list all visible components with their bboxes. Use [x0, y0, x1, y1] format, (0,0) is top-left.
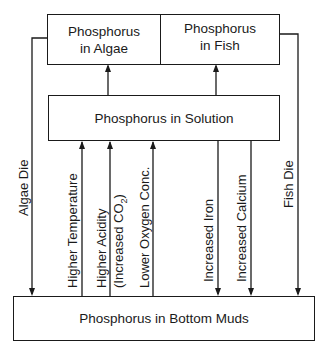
- node-algae-line2: in Algae: [68, 40, 140, 57]
- node-algae-line1: Phosphorus: [68, 23, 140, 40]
- node-phosphorus-in-bottom-muds: Phosphorus in Bottom Muds: [13, 296, 315, 341]
- edge-label-increased-co2: (Increased CO2): [112, 194, 131, 288]
- edge-label-lower-oxygen: Lower Oxygen Conc.: [138, 167, 152, 288]
- node-solution-label: Phosphorus in Solution: [95, 110, 234, 127]
- node-phosphorus-in-algae: Phosphorus in Algae: [47, 14, 161, 65]
- node-phosphorus-in-solution: Phosphorus in Solution: [48, 95, 280, 141]
- edge-label-higher-temperature: Higher Temperature: [66, 173, 80, 288]
- node-phosphorus-in-fish: Phosphorus in Fish: [160, 14, 280, 65]
- edge-label-algae-die: Algae Die: [17, 160, 31, 216]
- co2-suffix: ): [111, 194, 126, 198]
- node-muds-label: Phosphorus in Bottom Muds: [79, 310, 249, 327]
- edge-label-fish-die: Fish Die: [282, 160, 296, 208]
- co2-subscript: 2: [119, 198, 129, 203]
- edge-label-increased-iron: Increased Iron: [202, 199, 216, 282]
- co2-prefix: (Increased CO: [111, 203, 126, 288]
- edge-label-higher-acidity: Higher Acidity: [95, 209, 109, 288]
- node-fish-line1: Phosphorus: [184, 20, 256, 37]
- edge-label-increased-calcium: Increased Calcium: [235, 174, 249, 282]
- node-fish-line2: in Fish: [184, 37, 256, 54]
